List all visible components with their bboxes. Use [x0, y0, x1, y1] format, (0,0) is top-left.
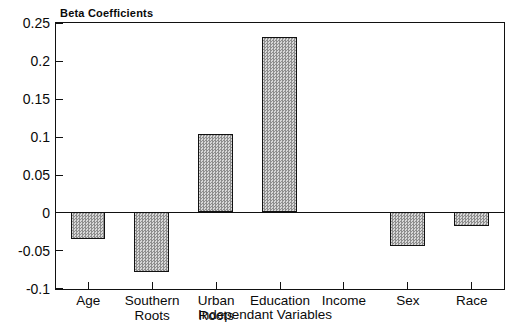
y-axis-tick-labels: 0.250.20.150.10.050-0.05-0.1 [0, 0, 50, 333]
beta-coefficients-bar-chart: Beta Coefficients 0.250.20.150.10.050-0.… [0, 0, 530, 333]
y-axis-tick-mark [56, 61, 63, 62]
y-axis-tick-label: 0.05 [23, 168, 50, 182]
x-axis-tick-mark [343, 282, 344, 289]
bar [134, 212, 169, 271]
x-axis-tick-mark [152, 282, 153, 289]
bar [71, 212, 106, 239]
y-axis-tick-mark [56, 99, 63, 100]
bar [454, 212, 489, 226]
plot-area [56, 23, 504, 289]
plot-frame [55, 22, 505, 290]
x-axis-tick-mark [216, 282, 217, 289]
y-axis-tick-mark [56, 250, 63, 251]
x-axis-tick-mark [88, 282, 89, 289]
y-axis-tick-mark [56, 23, 63, 24]
y-axis-tick-label: 0 [42, 206, 50, 220]
y-axis-tick-mark [56, 212, 63, 213]
x-axis-tick-mark [471, 282, 472, 289]
y-axis-tick-label: 0.15 [23, 92, 50, 106]
chart-title: Beta Coefficients [58, 7, 156, 19]
x-axis-tick-mark [407, 282, 408, 289]
y-axis-tick-label: 0.1 [31, 130, 50, 144]
bar [198, 134, 233, 213]
y-axis-tick-mark [56, 288, 63, 289]
x-axis-title: Independant Variables [0, 307, 530, 322]
y-axis-tick-label: -0.05 [18, 244, 50, 258]
zero-baseline [56, 212, 504, 213]
y-axis-tick-label: 0.2 [31, 54, 50, 68]
bar [262, 37, 297, 213]
y-axis-tick-mark [56, 137, 63, 138]
x-axis-tick-mark [280, 282, 281, 289]
y-axis-tick-label: -0.1 [26, 282, 50, 296]
y-axis-tick-label: 0.25 [23, 16, 50, 30]
y-axis-tick-mark [56, 175, 63, 176]
bar [390, 212, 425, 245]
